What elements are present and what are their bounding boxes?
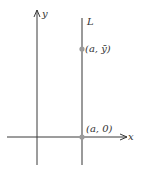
line-L-label: L (86, 16, 94, 27)
point-a-0 (79, 134, 84, 139)
point-a-0-label: (a, 0) (86, 123, 113, 134)
y-axis-label: y (41, 8, 48, 19)
diagram-canvas: y x L (a, ȳ) (a, 0) (0, 0, 144, 178)
point-a-ybar-label: (a, ȳ) (85, 43, 111, 54)
point-a-ybar (79, 46, 84, 51)
x-axis-label: x (128, 131, 134, 142)
